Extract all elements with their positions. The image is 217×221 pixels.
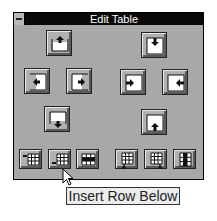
- table-insert-row-below-button[interactable]: [48, 149, 71, 169]
- table-insert-column-left-button[interactable]: [115, 149, 138, 169]
- shift-cells-up-icon: [142, 110, 168, 136]
- insert-row-above-button[interactable]: [46, 30, 72, 56]
- table-insert-row-above-button[interactable]: [19, 149, 42, 169]
- tooltip: Insert Row Below: [66, 187, 180, 205]
- insert-column-left-button[interactable]: [24, 68, 50, 94]
- table-insert-row-above-icon: [20, 150, 43, 170]
- shift-cells-down-icon: [142, 33, 168, 59]
- shift-cells-left-icon: [163, 70, 189, 96]
- table-delete-column-icon: [174, 150, 197, 170]
- insert-row-below-large-button[interactable]: [44, 106, 70, 132]
- system-menu-icon[interactable]: [14, 13, 25, 25]
- shift-cells-right-icon: [121, 70, 147, 96]
- window-title: Edit Table: [25, 13, 203, 25]
- shift-cells-left-button[interactable]: [162, 69, 188, 95]
- table-insert-row-below-icon: [49, 150, 72, 170]
- table-insert-column-left-icon: [116, 150, 139, 170]
- table-insert-column-right-icon: [145, 150, 168, 170]
- shift-cells-right-button[interactable]: [120, 69, 146, 95]
- insert-column-right-icon: [67, 69, 93, 95]
- title-bar[interactable]: Edit Table: [14, 13, 203, 25]
- insert-column-right-button[interactable]: [66, 68, 92, 94]
- table-delete-column-button[interactable]: [173, 149, 196, 169]
- table-delete-row-icon: [77, 150, 100, 170]
- edit-table-window: Edit Table: [13, 12, 204, 180]
- mouse-cursor-icon: [62, 168, 76, 188]
- shift-cells-down-button[interactable]: [141, 32, 167, 58]
- shift-cells-up-button[interactable]: [141, 109, 167, 135]
- insert-row-below-icon: [45, 107, 71, 133]
- insert-column-left-icon: [25, 69, 51, 95]
- insert-row-above-icon: [47, 31, 73, 57]
- table-insert-column-right-button[interactable]: [144, 149, 167, 169]
- table-delete-row-button[interactable]: [76, 149, 99, 169]
